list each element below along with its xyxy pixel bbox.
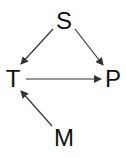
- node-p: P: [105, 67, 121, 91]
- edge-s-to-p: [75, 29, 103, 65]
- edge-s-to-t: [21, 29, 53, 64]
- node-m: M: [54, 126, 74, 150]
- node-s: S: [56, 9, 72, 33]
- edge-m-to-t: [21, 91, 52, 126]
- node-t: T: [6, 67, 21, 91]
